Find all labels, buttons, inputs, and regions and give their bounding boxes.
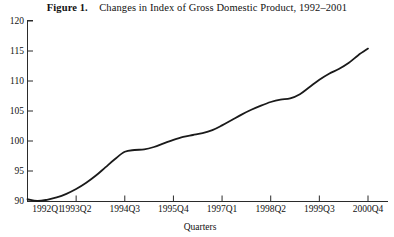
gdp-index-line	[28, 49, 369, 201]
x-tick-label: 1998Q2	[255, 204, 286, 214]
axis-layer	[27, 20, 388, 202]
x-tick-label: 1993Q2	[61, 204, 92, 214]
y-tick-label: 115	[10, 46, 24, 56]
y-tick-label: 110	[10, 76, 24, 86]
y-tick-layer: 9095100105110115120	[10, 16, 33, 206]
x-tick-label: 2000Q4	[353, 204, 384, 214]
line-chart-svg: 9095100105110115120 1992Q11993Q21994Q319…	[0, 0, 394, 237]
x-axis-title: Quarters	[184, 222, 217, 232]
x-tick-label: 1994Q3	[109, 204, 140, 214]
x-tick-label: 1997Q1	[207, 204, 238, 214]
x-tick-layer: 1992Q11993Q21994Q31995Q41997Q11998Q21999…	[28, 196, 384, 215]
chart-plot-area: 9095100105110115120 1992Q11993Q21994Q319…	[0, 0, 394, 237]
x-tick-label: 1992Q1	[32, 204, 63, 214]
y-tick-label: 90	[15, 196, 25, 206]
y-tick-label: 100	[10, 136, 25, 146]
y-tick-label: 120	[10, 16, 25, 26]
figure-page: Figure 1. Changes in Index of Gross Dome…	[0, 0, 394, 237]
x-tick-label: 1995Q4	[158, 204, 189, 214]
x-tick-label: 1999Q3	[304, 204, 335, 214]
y-tick-label: 95	[15, 166, 25, 176]
y-tick-label: 105	[10, 106, 25, 116]
